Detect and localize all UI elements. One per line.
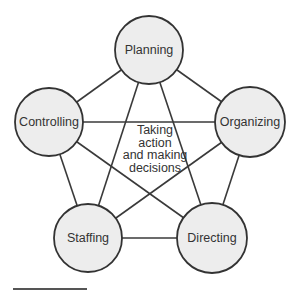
node-label-controlling: Controlling bbox=[19, 115, 79, 129]
center-label: Taking action and making decisions bbox=[110, 124, 200, 174]
node-controlling: Controlling bbox=[15, 88, 83, 156]
node-label-organizing: Organizing bbox=[220, 115, 280, 129]
node-label-directing: Directing bbox=[187, 231, 236, 245]
footnote-divider bbox=[13, 288, 87, 290]
node-label-planning: Planning bbox=[125, 43, 174, 57]
center-label-line-1: Taking bbox=[110, 124, 200, 137]
center-label-line-3: and making bbox=[110, 149, 200, 162]
node-label-staffing: Staffing bbox=[67, 231, 109, 245]
node-directing: Directing bbox=[177, 203, 247, 273]
node-staffing: Staffing bbox=[54, 204, 122, 272]
node-organizing: Organizing bbox=[215, 87, 285, 157]
center-label-line-4: decisions bbox=[110, 162, 200, 175]
node-planning: Planning bbox=[115, 16, 183, 84]
